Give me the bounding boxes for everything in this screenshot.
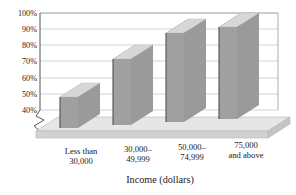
floor-front-face — [36, 131, 268, 138]
category-label-line: 30,000 — [69, 156, 93, 166]
category-label-line: and above — [228, 150, 263, 160]
category-label-line: 50,000– — [178, 142, 207, 152]
category-label-line: 74,999 — [180, 152, 204, 162]
bar-front-face — [60, 97, 78, 128]
bar-right-face — [131, 45, 153, 125]
y-tick-label: 50% — [22, 90, 37, 99]
bar-front-face — [219, 27, 237, 119]
bar-chart-figure: 100% 90% 80% 70% 60% 50% 40% — [0, 0, 296, 195]
chart-canvas: 100% 90% 80% 70% 60% 50% 40% — [0, 0, 296, 195]
bar-column — [113, 45, 153, 125]
category-label-line: 49,999 — [126, 154, 150, 164]
bar-front-face — [113, 59, 131, 125]
bar-right-face — [237, 13, 259, 119]
x-category-labels: Less than 30,000 30,000– 49,999 50,000– … — [65, 140, 264, 166]
y-tick-labels: 100% 90% 80% 70% 60% 50% 40% — [18, 9, 37, 115]
y-tick-label: 70% — [22, 57, 37, 66]
category-label-line: 30,000– — [124, 144, 153, 154]
y-tick-label: 90% — [22, 25, 37, 34]
y-tick-label: 80% — [22, 41, 37, 50]
y-tick-label: 60% — [22, 74, 37, 83]
category-label-line: 75,000 — [234, 140, 258, 150]
bar-front-face — [166, 33, 184, 122]
x-axis-title: Income (dollars) — [126, 174, 194, 186]
bar-right-face — [184, 19, 206, 122]
bar-column — [219, 13, 259, 119]
bar-column — [166, 19, 206, 122]
category-label-line: Less than — [65, 146, 98, 156]
y-tick-label: 100% — [18, 9, 37, 18]
y-tick-label: 40% — [22, 106, 37, 115]
